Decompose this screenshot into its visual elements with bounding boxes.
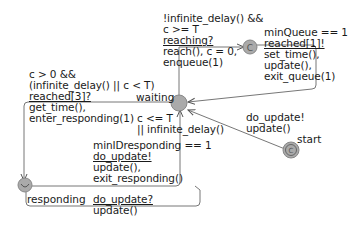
location-name-start: start (297, 133, 321, 145)
update-label: exit_responding() (93, 172, 183, 184)
update-label: enqueue(1) (163, 56, 223, 68)
update-label: update() (93, 204, 137, 216)
svg-text:C: C (247, 43, 253, 53)
guard-label: || infinite_delay() (137, 123, 224, 135)
update-label: exit_queue(1) (264, 70, 335, 82)
update-label: update() (246, 122, 290, 134)
location-name-waiting: waiting (136, 91, 174, 103)
location-name-responding: responding (27, 193, 86, 205)
svg-text:C: C (289, 147, 294, 155)
location-responding (18, 178, 32, 192)
update-label: enter_responding(1) (29, 112, 134, 124)
